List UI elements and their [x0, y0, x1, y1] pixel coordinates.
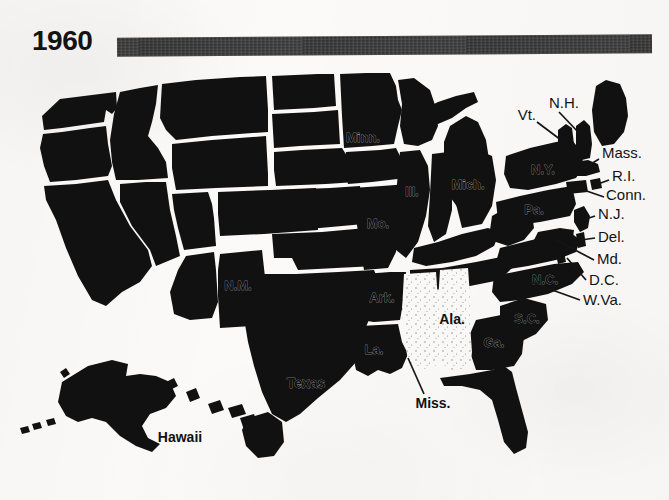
callout-rhode-island: R.I. — [612, 167, 635, 184]
callout-massachusetts: Mass. — [602, 144, 642, 161]
map-page: 1960 — [0, 0, 669, 500]
state-oregon — [40, 126, 112, 182]
label-hawaii: Hawaii — [158, 429, 202, 445]
state-nebraska — [274, 148, 356, 186]
callout-new-jersey: N.J. — [598, 205, 625, 222]
state-washington — [42, 92, 117, 130]
header-rule-bar — [117, 34, 652, 56]
label-minnesota: Minn. — [346, 130, 380, 145]
us-map: Minn. Mich. Ill. Mo. Ark. La. Texas N.M.… — [0, 70, 669, 500]
state-indiana — [428, 152, 452, 242]
label-louisiana: La. — [365, 342, 384, 357]
callout-delaware: Del. — [598, 228, 625, 245]
label-illinois: Ill. — [405, 185, 418, 199]
state-idaho — [110, 85, 168, 180]
state-alaska-aleutian-3 — [20, 426, 30, 434]
label-south-carolina: S.C. — [514, 311, 539, 326]
state-arizona — [170, 252, 218, 320]
label-texas: Texas — [287, 375, 326, 391]
state-kansas — [278, 186, 364, 230]
callout-connecticut: Conn. — [606, 186, 646, 203]
callout-vermont: Vt. — [518, 106, 536, 123]
shaded-states-group — [20, 73, 628, 458]
label-arkansas: Ark. — [369, 290, 394, 305]
state-connecticut — [566, 180, 588, 194]
callout-district-of-columbia: D.C. — [589, 271, 619, 288]
label-new-mexico: N.M. — [224, 278, 251, 293]
callout-new-hampshire: N.H. — [549, 94, 579, 111]
label-mississippi: Miss. — [415, 395, 450, 411]
label-missouri: Mo. — [367, 216, 389, 231]
state-hawaii-molokai — [228, 404, 246, 418]
state-mississippi — [402, 272, 442, 370]
state-hawaii-big-island — [242, 412, 284, 458]
label-new-york: N.Y. — [531, 162, 555, 177]
state-south-dakota — [272, 110, 340, 148]
label-alabama: Ala. — [439, 311, 465, 327]
state-north-dakota — [272, 74, 336, 110]
map-header: 1960 — [0, 0, 669, 80]
label-michigan: Mich. — [451, 177, 484, 192]
us-map-svg: Minn. Mich. Ill. Mo. Ark. La. Texas N.M.… — [0, 70, 669, 500]
callout-maryland: Md. — [597, 250, 622, 267]
label-georgia: Ga. — [484, 335, 505, 350]
state-wyoming — [172, 136, 268, 190]
state-florida — [440, 366, 528, 454]
callout-west-virginia: W.Va. — [583, 291, 622, 308]
state-alaska-aleutian-2 — [32, 422, 42, 430]
state-alaska-kodiak — [60, 368, 70, 378]
state-maine — [592, 80, 628, 146]
state-hawaii-kauai — [186, 388, 200, 402]
state-alaska-aleutian-1 — [46, 418, 56, 426]
state-hawaii-oahu — [208, 400, 224, 414]
label-pennsylvania: Pa. — [524, 202, 544, 217]
state-montana — [160, 76, 268, 140]
state-iowa — [344, 148, 406, 184]
leader-vermont — [537, 122, 561, 140]
year-title: 1960 — [32, 27, 92, 55]
state-utah — [172, 192, 216, 250]
